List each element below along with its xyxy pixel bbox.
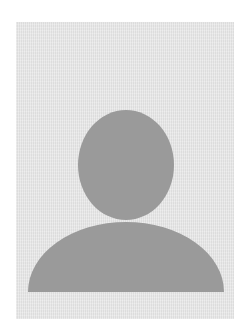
- user-head-icon: [78, 110, 174, 220]
- avatar-alt-text: Default user avatar silhouette: [0, 0, 1, 1]
